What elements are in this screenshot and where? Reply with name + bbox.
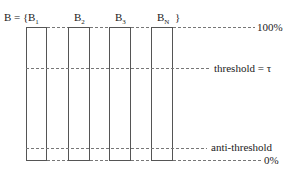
bin-label-3-sub: 3 (122, 18, 126, 26)
bin-box-3 (110, 28, 131, 161)
label-anti-threshold: anti-threshold (211, 142, 272, 153)
bin-label-n-sub: N (164, 18, 169, 26)
bin-box-1 (27, 28, 47, 161)
label-100-percent: 100% (257, 22, 283, 33)
bin-label-3: B3 (115, 12, 126, 25)
label-threshold: threshold = τ (214, 63, 271, 74)
bin-box-2 (69, 28, 90, 161)
set-prefix: B = { (4, 12, 28, 23)
set-suffix: } (175, 12, 180, 23)
label-0-percent: 0% (264, 155, 279, 166)
bin-label-1: B1 (28, 12, 39, 25)
bin-label-1-sub: 1 (35, 18, 39, 26)
bin-boxes (27, 28, 173, 161)
bin-label-2: B2 (74, 12, 85, 25)
bin-box-n (152, 28, 173, 161)
bin-label-n: BN (157, 12, 169, 25)
bin-label-2-sub: 2 (81, 18, 85, 26)
